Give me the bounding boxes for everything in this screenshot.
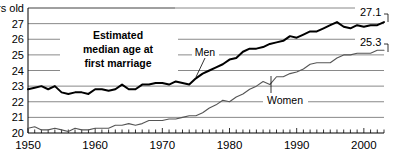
x-axis-tick-labels: 195019601970198019902000 — [15, 139, 376, 151]
chart-title-line-2: median age at — [83, 43, 154, 55]
y-tick-label-26: 26 — [12, 33, 24, 45]
women-label: Women — [267, 94, 303, 106]
y-tick-label-28: 28 years old — [0, 2, 24, 14]
marriage-age-line-chart: 202122232425262728 years old 19501960197… — [0, 0, 401, 156]
y-axis-tick-labels: 202122232425262728 years old — [0, 2, 24, 139]
y-tick-label-27: 27 — [12, 18, 24, 30]
annotations-group: Estimatedmedian age atfirst marriageEsti… — [60, 4, 399, 107]
y-tick-label-23: 23 — [12, 80, 24, 92]
x-tick-label-2000: 2000 — [351, 139, 377, 151]
women-end-value-label: 25.3 — [360, 36, 381, 48]
y-tick-label-25: 25 — [12, 49, 24, 61]
men-end-value-label: 27.1 — [360, 6, 381, 18]
x-tick-label-1960: 1960 — [82, 139, 108, 151]
men-label: Men — [195, 46, 216, 58]
y-tick-label-22: 22 — [12, 96, 24, 108]
y-tick-label-20: 20 — [12, 127, 24, 139]
chart-title-line-1: Estimated — [93, 29, 143, 41]
chart-title-line-3: first marriage — [84, 57, 151, 69]
x-tick-label-1970: 1970 — [150, 139, 176, 151]
chart-container: 202122232425262728 years old 19501960197… — [0, 0, 401, 156]
y-tick-label-24: 24 — [12, 65, 24, 77]
x-tick-label-1980: 1980 — [217, 139, 243, 151]
x-tick-label-1990: 1990 — [284, 139, 310, 151]
y-tick-label-21: 21 — [12, 111, 24, 123]
x-tick-label-1950: 1950 — [15, 139, 41, 151]
